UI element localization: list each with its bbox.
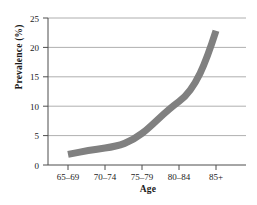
x-tick-label-70-74: 70–74 (94, 172, 117, 182)
y-tick-label-5: 5 (35, 131, 40, 141)
x-axis-ticks (68, 165, 216, 170)
y-axis-ticks (43, 18, 48, 165)
x-axis-tick-labels: 65–69 70–74 75–79 80–84 85+ (57, 172, 223, 182)
x-tick-label-80-84: 80–84 (168, 172, 191, 182)
y-tick-label-15: 15 (30, 72, 40, 82)
y-tick-label-20: 20 (30, 43, 40, 53)
x-tick-label-75-79: 75–79 (131, 172, 154, 182)
y-axis-tick-labels: 25 20 15 10 5 0 (30, 14, 40, 171)
x-axis-title: Age (48, 184, 248, 194)
x-tick-label-85plus: 85+ (209, 172, 223, 182)
y-tick-label-0: 0 (35, 161, 40, 171)
prevalence-by-age-line-chart: Prevalence (%) 25 (0, 0, 257, 205)
plot-area: 25 20 15 10 5 0 65–69 70–74 75–79 80–84 … (0, 0, 257, 205)
x-tick-label-65-69: 65–69 (57, 172, 80, 182)
y-tick-label-25: 25 (30, 14, 40, 24)
y-tick-label-10: 10 (30, 102, 40, 112)
